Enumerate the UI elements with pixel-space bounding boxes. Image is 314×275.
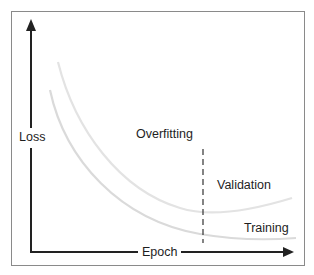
y-axis-label: Loss	[19, 131, 45, 144]
x-axis-arrow-icon	[283, 247, 294, 257]
x-axis-label: Epoch	[142, 246, 177, 259]
training-curve	[50, 90, 296, 239]
training-label: Training	[244, 222, 289, 235]
y-axis-arrow-icon	[26, 19, 36, 31]
overfitting-label: Overfitting	[136, 128, 193, 141]
validation-label: Validation	[217, 179, 271, 192]
